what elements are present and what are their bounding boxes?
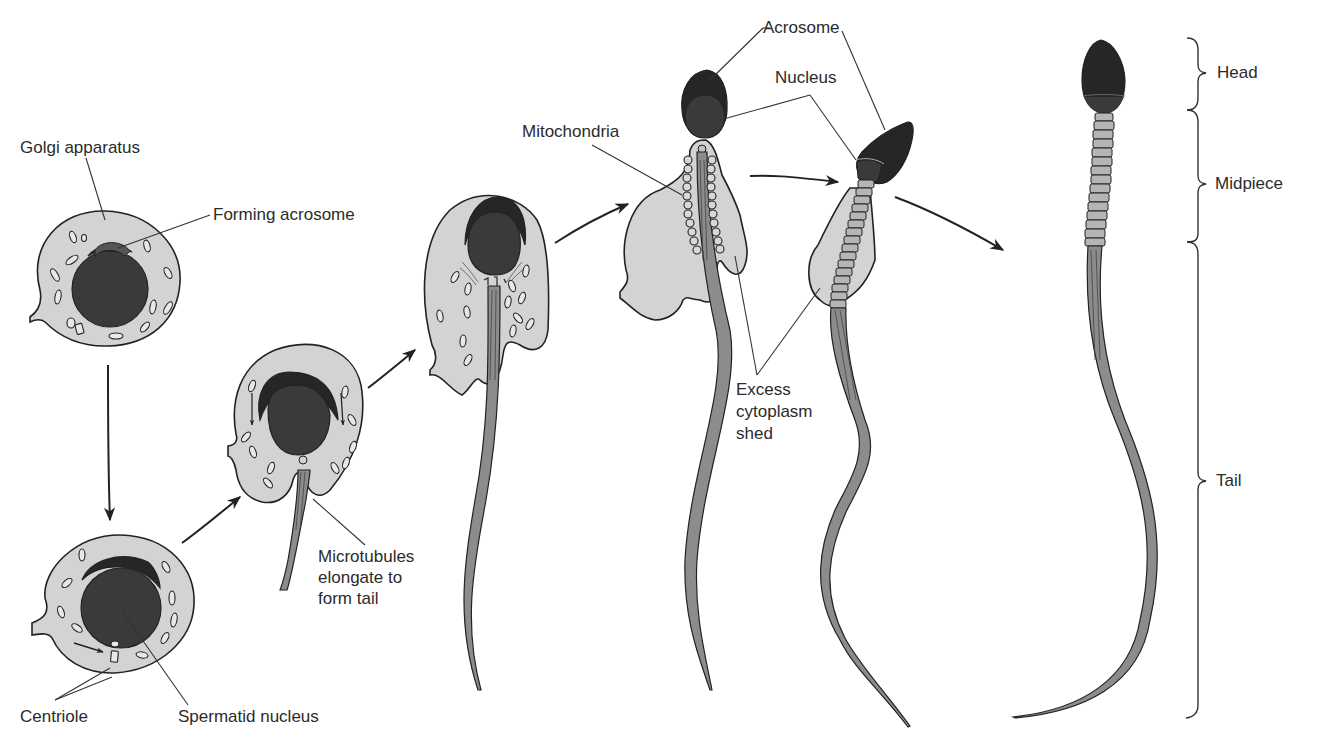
stage-7-mature-sperm — [1013, 40, 1157, 718]
label-mitochondria: Mitochondria — [522, 122, 619, 142]
label-nucleus: Nucleus — [775, 68, 836, 88]
label-golgi-apparatus: Golgi apparatus — [20, 138, 140, 158]
label-microtubules-line1: Microtubules — [318, 547, 414, 567]
stage-5-spermatid — [620, 70, 747, 690]
arrow-4-5 — [555, 204, 628, 243]
head-brace — [1187, 38, 1206, 110]
stage-2-spermatid — [32, 535, 194, 673]
arrow-1-2 — [108, 365, 110, 520]
label-microtubules-line3: form tail — [318, 589, 378, 609]
arrow-6-7 — [895, 197, 1003, 250]
label-acrosome: Acrosome — [763, 18, 840, 38]
midpiece-segments — [1085, 113, 1114, 246]
tail-brace — [1186, 242, 1206, 718]
region-braces — [1186, 38, 1206, 718]
label-excess-line3: shed — [736, 424, 773, 444]
stage-6-spermatid — [809, 122, 913, 727]
midpiece-brace — [1187, 110, 1206, 242]
nucleus-shape — [72, 251, 148, 327]
label-excess-line1: Excess — [736, 380, 791, 400]
label-head: Head — [1217, 63, 1258, 83]
label-spermatid-nucleus: Spermatid nucleus — [178, 707, 319, 727]
label-forming-acrosome: Forming acrosome — [213, 205, 355, 225]
label-midpiece: Midpiece — [1215, 174, 1283, 194]
arrow-2-3 — [182, 497, 240, 543]
label-centriole: Centriole — [20, 707, 88, 727]
label-microtubules-line2: elongate to — [318, 568, 402, 588]
arrow-3-4 — [368, 350, 415, 388]
centriole-shape — [111, 641, 119, 647]
stage-1-spermatid — [30, 211, 180, 346]
arrow-5-6 — [750, 176, 838, 182]
spermiogenesis-diagram — [0, 0, 1320, 742]
stage-4-spermatid — [425, 196, 549, 690]
label-tail: Tail — [1216, 471, 1242, 491]
label-excess-line2: cytoplasm — [736, 402, 813, 422]
